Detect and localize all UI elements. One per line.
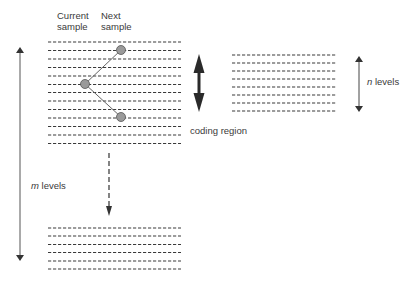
n-levels-label: n levels bbox=[367, 76, 399, 87]
current-sample-label-line2: sample bbox=[57, 21, 89, 32]
m-levels-text: levels bbox=[39, 180, 66, 191]
right-quantization-levels bbox=[232, 55, 337, 111]
coding-region-label: coding region bbox=[190, 125, 247, 136]
dashed-down-arrow-icon bbox=[106, 153, 112, 216]
next-sample-dot-up bbox=[117, 46, 126, 55]
diagram-canvas bbox=[0, 0, 416, 285]
next-sample-label-line1: Next bbox=[101, 10, 132, 21]
current-sample-label-line1: Current bbox=[57, 10, 89, 21]
coding-region-arrow-icon bbox=[194, 54, 205, 112]
bottom-quantization-levels bbox=[48, 228, 181, 269]
m-variable: m bbox=[31, 180, 39, 191]
n-levels-text: levels bbox=[372, 76, 399, 87]
main-quantization-levels bbox=[48, 42, 181, 144]
next-sample-label-line2: sample bbox=[101, 21, 132, 32]
next-sample-dot-down bbox=[117, 113, 126, 122]
current-sample-label: Current sample bbox=[57, 10, 89, 32]
m-levels-label: m levels bbox=[31, 180, 66, 191]
next-sample-label: Next sample bbox=[101, 10, 132, 32]
current-sample-dot bbox=[81, 80, 90, 89]
